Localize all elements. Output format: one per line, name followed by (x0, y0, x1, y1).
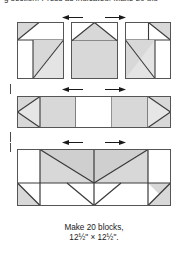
figure-caption: Make 20 blocks, 12½" × 12½". (0, 223, 188, 243)
top-unit-row (17, 22, 171, 80)
press-arrow-right (104, 138, 126, 147)
quilt-assembly-figure (0, 10, 188, 215)
corner-hst-unit-right (126, 23, 171, 79)
middle-strip-row (17, 96, 171, 128)
diagram-page: g section. Press as indicated. Make 20 b… (0, 0, 188, 255)
right-point-triangle-unit (148, 97, 171, 128)
center-background-square (76, 97, 112, 128)
press-arrow-right (104, 85, 126, 94)
corner-hst-unit-left (18, 23, 64, 79)
alignment-tick-lower (10, 143, 11, 152)
bottom-row-pressing-arrows (0, 138, 188, 147)
shaded-rectangle-left (40, 97, 76, 128)
clipped-heading-text: g section. Press as indicated. Make 20 b… (4, 0, 188, 4)
shaded-rectangle-right (112, 97, 148, 128)
caption-line-1: Make 20 blocks, (0, 223, 188, 233)
top-row-pressing-arrows (0, 13, 188, 22)
caption-line-2: 12½" × 12½". (0, 233, 188, 243)
left-point-triangle-unit (18, 97, 41, 128)
flying-geese-top-unit-center (72, 23, 118, 79)
bottom-unit-row (17, 149, 171, 206)
middle-row-pressing-arrows (0, 85, 188, 94)
press-arrow-left (62, 85, 84, 94)
press-arrow-left (62, 13, 84, 22)
press-arrow-left (62, 138, 84, 147)
press-arrow-right (104, 13, 126, 22)
